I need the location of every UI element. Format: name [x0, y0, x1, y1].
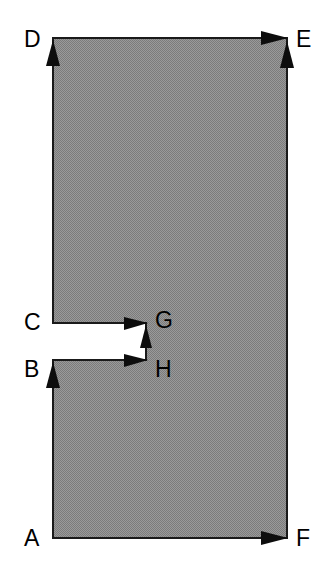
shaded-polygon-body	[53, 38, 287, 538]
vertex-label-b: B	[24, 358, 39, 381]
vertex-label-h: H	[155, 358, 172, 381]
geometry-figure-canvas: D E C G B H A F	[0, 0, 333, 573]
vertex-label-c: C	[24, 311, 41, 334]
vertex-label-e: E	[296, 28, 311, 51]
vertex-label-f: F	[296, 527, 310, 550]
vertex-label-a: A	[24, 527, 39, 550]
vertex-label-d: D	[24, 28, 41, 51]
figure-svg	[0, 0, 333, 573]
vertex-label-g: G	[155, 309, 173, 332]
